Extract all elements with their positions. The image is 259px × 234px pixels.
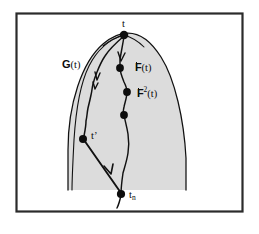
label-iterate-1-arg: (t) [142, 62, 152, 73]
point-t-prime [79, 135, 87, 143]
label-t-prime-mark: ’ [94, 130, 98, 141]
point-iterate-2 [123, 88, 131, 96]
label-iterate-2-arg: (t) [147, 88, 157, 99]
label-t-n: tn [129, 190, 136, 201]
point-apex-t [120, 31, 129, 40]
figure-container: t G(t) F(t) F2(t) t’ tn [0, 0, 259, 234]
label-apex-t: t [122, 19, 125, 30]
label-iterate-1-letter: F [135, 62, 142, 73]
label-region-g: G(t) [62, 59, 80, 71]
label-iterate-1: F(t) [135, 62, 151, 74]
label-iterate-2-letter: F [137, 88, 144, 99]
label-region-g-letter: G [62, 58, 71, 70]
label-iterate-2: F2(t) [137, 88, 157, 100]
point-t-n [117, 190, 125, 198]
label-t-n-subscript: n [132, 193, 136, 202]
label-region-g-arg: (t) [71, 59, 81, 70]
point-iterate-3 [120, 111, 128, 119]
point-iterate-1 [116, 64, 124, 72]
label-t-prime: t’ [91, 131, 97, 142]
